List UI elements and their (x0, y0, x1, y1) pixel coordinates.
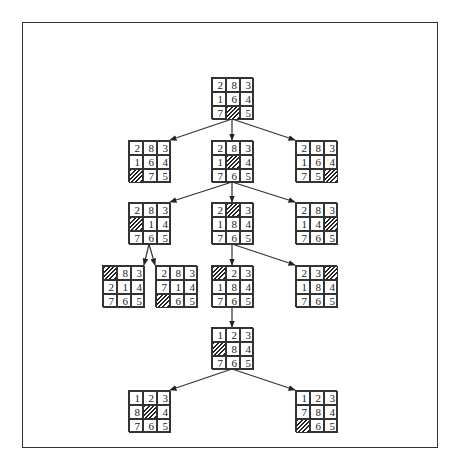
tile: 5 (310, 169, 324, 183)
tile: 8 (310, 203, 324, 217)
tile: 6 (170, 294, 184, 308)
tile: 5 (240, 294, 254, 308)
tile: 1 (296, 280, 310, 294)
blank-tile (129, 217, 143, 231)
tile: 4 (157, 405, 171, 419)
tile: 7 (212, 294, 226, 308)
tile: 1 (296, 391, 310, 405)
tile: 1 (129, 391, 143, 405)
tile: 5 (240, 356, 254, 370)
puzzle-state-n0: 28316475 (211, 77, 253, 119)
tile: 5 (157, 231, 171, 245)
tile: 3 (240, 141, 254, 155)
tile: 2 (143, 391, 157, 405)
blank-tile (212, 266, 226, 280)
tile: 1 (212, 280, 226, 294)
tile: 6 (143, 419, 157, 433)
tile: 5 (324, 419, 338, 433)
tile: 4 (240, 92, 254, 106)
blank-tile (129, 169, 143, 183)
tile: 4 (240, 280, 254, 294)
tile: 8 (170, 266, 184, 280)
tile: 1 (212, 92, 226, 106)
tile: 5 (324, 231, 338, 245)
tile: 7 (212, 356, 226, 370)
tile: 2 (129, 141, 143, 155)
tile: 4 (324, 155, 338, 169)
tile: 7 (129, 419, 143, 433)
blank-tile (226, 203, 240, 217)
tile: 8 (226, 342, 240, 356)
puzzle-state-n1b: 28314765 (211, 140, 253, 182)
tile: 4 (324, 405, 338, 419)
tile: 1 (117, 280, 131, 294)
tile: 6 (117, 294, 131, 308)
puzzle-state-n4: 12384765 (211, 327, 253, 369)
tile: 6 (226, 169, 240, 183)
edge-arrow (170, 119, 232, 140)
tile: 5 (184, 294, 198, 308)
tile: 7 (103, 294, 117, 308)
blank-tile (226, 106, 240, 120)
tile: 6 (226, 294, 240, 308)
tile: 4 (131, 280, 145, 294)
tile: 3 (240, 203, 254, 217)
tile: 3 (240, 78, 254, 92)
blank-tile (324, 217, 338, 231)
blank-tile (226, 155, 240, 169)
blank-tile (296, 419, 310, 433)
tile: 7 (296, 231, 310, 245)
tile: 4 (184, 280, 198, 294)
tile: 2 (103, 280, 117, 294)
tile: 4 (240, 155, 254, 169)
blank-tile (212, 342, 226, 356)
tile: 8 (129, 405, 143, 419)
tile: 6 (226, 231, 240, 245)
tile: 2 (226, 266, 240, 280)
edge-arrow (149, 244, 155, 265)
tile: 3 (240, 328, 254, 342)
tile: 3 (131, 266, 145, 280)
tile: 1 (212, 328, 226, 342)
tile: 1 (212, 155, 226, 169)
tile: 3 (157, 141, 171, 155)
tile: 4 (240, 217, 254, 231)
puzzle-state-n1a: 28316475 (128, 140, 170, 182)
puzzle-state-n2c: 28314765 (295, 202, 337, 244)
puzzle-state-n5a: 12384765 (128, 390, 170, 432)
tile: 4 (240, 342, 254, 356)
tile: 6 (143, 231, 157, 245)
tile: 7 (296, 405, 310, 419)
tile: 7 (296, 294, 310, 308)
tile: 5 (157, 419, 171, 433)
tile: 2 (296, 266, 310, 280)
tile: 3 (324, 141, 338, 155)
tile: 1 (296, 217, 310, 231)
tile: 3 (184, 266, 198, 280)
tile: 5 (240, 106, 254, 120)
blank-tile (324, 169, 338, 183)
puzzle-state-n5b: 12378465 (295, 390, 337, 432)
tile: 8 (310, 141, 324, 155)
tile: 5 (131, 294, 145, 308)
tile: 2 (156, 266, 170, 280)
puzzle-state-n3d: 23184765 (295, 265, 337, 307)
blank-tile (143, 405, 157, 419)
blank-tile (156, 294, 170, 308)
tile: 8 (226, 217, 240, 231)
tile: 1 (212, 217, 226, 231)
tile: 8 (310, 280, 324, 294)
tile: 8 (117, 266, 131, 280)
tile: 2 (296, 141, 310, 155)
tile: 3 (310, 266, 324, 280)
tile: 6 (226, 356, 240, 370)
tile: 6 (310, 419, 324, 433)
tile: 7 (143, 169, 157, 183)
tile: 1 (129, 155, 143, 169)
tile: 7 (212, 231, 226, 245)
tile: 3 (157, 203, 171, 217)
tile: 7 (156, 280, 170, 294)
tile: 8 (226, 141, 240, 155)
tile: 2 (226, 328, 240, 342)
tile: 2 (296, 203, 310, 217)
